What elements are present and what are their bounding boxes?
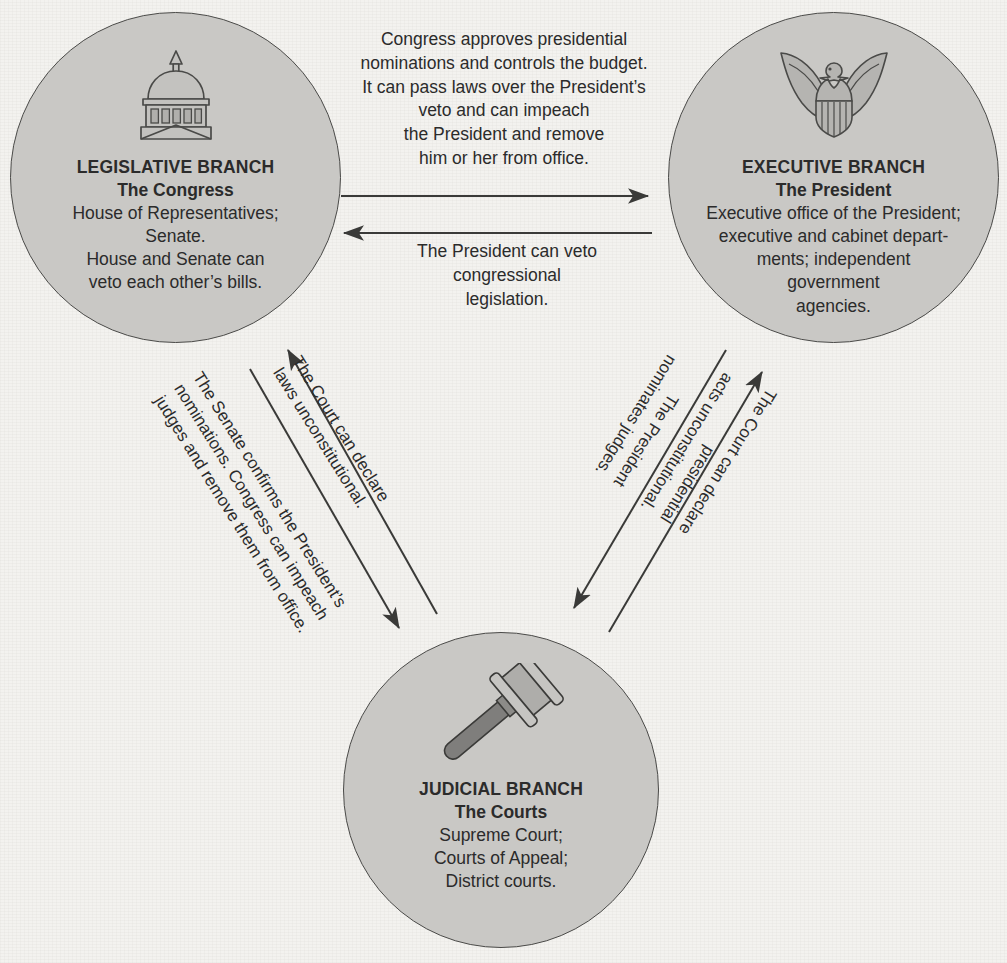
caption-judicial-to-legislative: The Court can declare laws unconstitutio… xyxy=(267,352,394,518)
gavel-icon xyxy=(431,663,571,773)
node-executive-title: EXECUTIVE BRANCH xyxy=(742,157,925,179)
node-executive-description: Executive office of the President; execu… xyxy=(706,202,961,318)
node-judicial-description: Supreme Court; Courts of Appeal; Distric… xyxy=(434,824,568,894)
checks-and-balances-diagram: LEGISLATIVE BRANCH The Congress House of… xyxy=(0,0,1007,963)
node-legislative-description: House of Representatives; Senate. House … xyxy=(72,202,278,295)
node-legislative-branch[interactable]: LEGISLATIVE BRANCH The Congress House of… xyxy=(10,12,341,343)
eagle-shield-icon xyxy=(772,47,896,145)
node-legislative-title: LEGISLATIVE BRANCH xyxy=(77,157,275,179)
node-judicial-subtitle: The Courts xyxy=(455,801,547,824)
caption-executive-to-legislative: The President can veto congressional leg… xyxy=(352,240,662,311)
node-judicial-title: JUDICIAL BRANCH xyxy=(419,779,583,801)
node-legislative-subtitle: The Congress xyxy=(117,179,234,202)
capitol-dome-icon xyxy=(130,47,222,145)
node-executive-branch[interactable]: EXECUTIVE BRANCH The President Executive… xyxy=(668,12,999,343)
node-judicial-branch[interactable]: JUDICIAL BRANCH The Courts Supreme Court… xyxy=(343,632,659,948)
caption-legislative-to-executive: Congress approves presidential nominatio… xyxy=(330,28,678,171)
node-executive-subtitle: The President xyxy=(776,179,892,202)
